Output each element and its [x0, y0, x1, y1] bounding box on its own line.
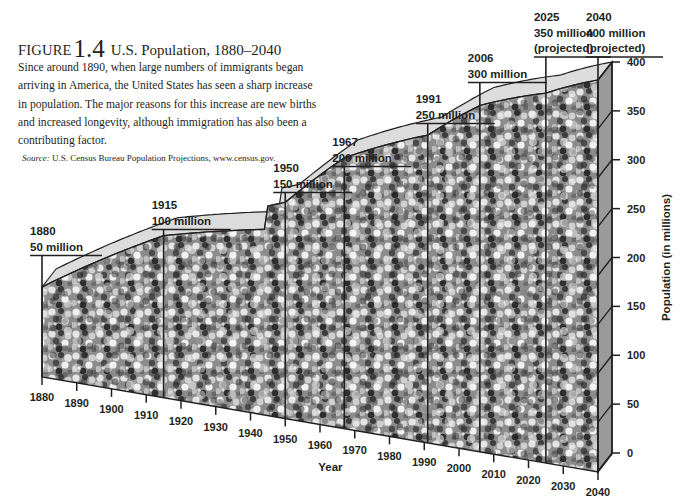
- x-tick-label: 2010: [482, 468, 506, 480]
- y-tick-label: 150: [627, 300, 645, 312]
- y-tick-label: 50: [627, 398, 639, 410]
- x-tick-label: 2020: [516, 474, 540, 486]
- x-tick-label: 2030: [551, 480, 575, 492]
- x-tick-label: 1930: [204, 421, 228, 433]
- x-tick-label: 2000: [447, 462, 471, 474]
- annotation-text: 2040: [586, 11, 612, 23]
- annotation-text: 1967: [332, 136, 358, 148]
- annotation-text: 1991: [416, 93, 442, 105]
- y-tick-label: 250: [627, 203, 645, 215]
- annotation-text: 300 million: [468, 68, 527, 80]
- x-tick-label: 1890: [65, 397, 89, 409]
- chart-front-face-overlay: [42, 80, 598, 472]
- annotation-text: 1880: [30, 225, 56, 237]
- annotation-text: 250 million: [416, 109, 475, 121]
- annotation-text: 150 million: [273, 178, 332, 190]
- annotation-text: (projected): [586, 42, 646, 54]
- y-tick-label: 300: [627, 154, 645, 166]
- x-tick-label: 1990: [412, 456, 436, 468]
- annotation-text: 200 million: [332, 152, 391, 164]
- x-tick-label: 1950: [273, 433, 297, 445]
- x-tick-label: 1910: [134, 409, 158, 421]
- annotation-text: 100 million: [152, 215, 211, 227]
- x-tick-label: 1940: [238, 427, 262, 439]
- x-tick-label: 1880: [30, 391, 54, 403]
- population-chart: 050100150200250300350400Population (in m…: [0, 0, 682, 498]
- y-tick-label: 0: [627, 447, 633, 459]
- annotation-text: 350 million: [534, 27, 593, 39]
- annotation-text: 400 million: [586, 27, 645, 39]
- x-tick-label: 1980: [377, 450, 401, 462]
- annotation-text: 2006: [468, 52, 494, 64]
- y-tick-label: 400: [627, 56, 645, 68]
- x-tick-label: 2040: [586, 486, 610, 498]
- x-tick-label: 1900: [99, 403, 123, 415]
- annotation-text: 2025: [534, 11, 560, 23]
- y-tick-label: 200: [627, 252, 645, 264]
- annotation-text: 1915: [152, 199, 178, 211]
- annotation-text: 50 million: [30, 241, 83, 253]
- x-tick-label: 1970: [343, 444, 367, 456]
- x-tick-label: 1920: [169, 415, 193, 427]
- annotation-text: 1950: [273, 162, 299, 174]
- x-tick-label: 1960: [308, 439, 332, 451]
- y-tick-label: 350: [627, 105, 645, 117]
- y-axis-title: Population (in millions): [660, 194, 672, 321]
- x-axis-title: Year: [318, 461, 343, 473]
- y-tick-label: 100: [627, 349, 645, 361]
- annotation-text: (projected): [534, 42, 594, 54]
